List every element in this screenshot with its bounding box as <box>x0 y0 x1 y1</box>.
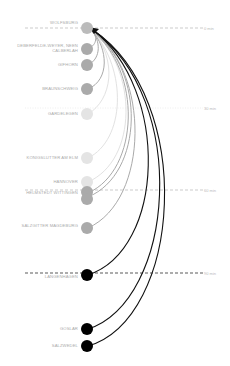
node-langenhagen <box>81 269 93 281</box>
node-wolfsburg <box>81 22 93 34</box>
time-label-0: 0 min <box>204 26 214 31</box>
label-calberlah: DEBERFELDE-WEYER, NEEN CALBERLAH <box>14 44 78 53</box>
label-helmstedt-wittingen: HELMSTEDT WITTINGEN <box>14 191 78 196</box>
node-goslar <box>81 323 93 335</box>
label-wolfsburg: WOLFSBURG <box>14 21 78 26</box>
node-gifhorn <box>81 59 93 71</box>
node-koenigslutter <box>81 152 93 164</box>
label-gardelegen: GARDELEGEN <box>14 112 78 117</box>
label-salzgitter-magdeburg: SALZGITTER MAGDEBURG <box>14 224 78 229</box>
time-label-30: 30 min <box>204 106 216 111</box>
node-calberlah <box>81 43 93 55</box>
node-salzgitter <box>81 222 93 234</box>
node-gardelegen <box>81 108 93 120</box>
time-label-90: 90 min <box>204 271 216 276</box>
node-wittingen <box>81 193 93 205</box>
label-koenigslutter: KÖNIGSLUTTER AM ELM <box>14 156 78 161</box>
label-braunschweig: BRAUNSCHWEIG <box>14 87 78 92</box>
label-gifhorn: GIFHORN <box>14 63 78 68</box>
label-hannover: HANNOVER <box>14 180 78 185</box>
label-salzwedel: SALZWEDEL <box>14 344 78 349</box>
label-goslar: GOSLAR <box>14 327 78 332</box>
label-langenhagen: LANGENHAGEN <box>14 275 78 280</box>
time-label-60: 60 min <box>204 188 216 193</box>
node-salzwedel <box>81 340 93 352</box>
node-braunschweig <box>81 83 93 95</box>
